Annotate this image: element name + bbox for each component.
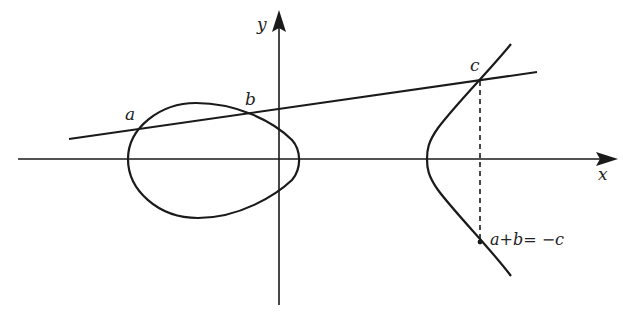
x-axis-label: x — [598, 166, 608, 183]
point-c-label: c — [470, 57, 480, 74]
point-neg-c-marker — [478, 240, 483, 245]
secant-line — [69, 72, 537, 139]
point-a-label: a — [125, 106, 135, 123]
diagram-svg — [0, 0, 623, 318]
elliptic-curve-diagram: y x a b c a+b= −c — [0, 0, 623, 318]
point-b-label: b — [245, 91, 256, 108]
curve-oval-component — [128, 103, 299, 218]
point-neg-c-label: a+b= −c — [490, 232, 564, 248]
y-axis-label: y — [257, 16, 267, 33]
